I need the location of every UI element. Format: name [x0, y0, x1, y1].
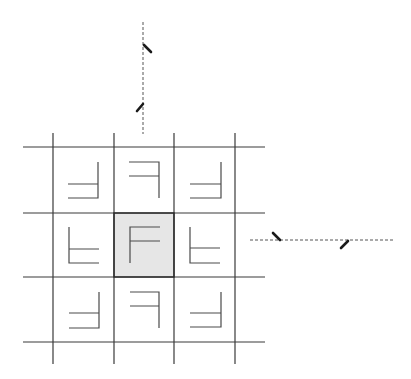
axis-tick-mark: [137, 104, 143, 111]
axis-tick-mark: [341, 241, 348, 248]
glyph-r0c2: [190, 162, 221, 198]
glyph-r2c1: [130, 292, 159, 328]
glyph-r2c2: [190, 292, 221, 327]
glyph-r0c0: [68, 162, 98, 198]
glyph-r1c0: [69, 227, 99, 263]
glyph-r1c2: [190, 227, 220, 263]
horizontal-glide-axis: [250, 233, 394, 248]
glyph-r2c0: [69, 292, 99, 328]
vertical-glide-axis: [137, 22, 151, 134]
axis-tick-mark: [144, 45, 151, 52]
center-cell-fill: [114, 213, 174, 277]
glyph-r0c1: [129, 162, 159, 198]
axis-tick-mark: [273, 233, 280, 240]
diagram-canvas: [0, 0, 411, 379]
